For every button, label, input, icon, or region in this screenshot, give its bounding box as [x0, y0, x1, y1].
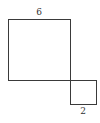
squares-diagram: 6 2 — [0, 0, 100, 123]
small-square-side-label: 2 — [76, 107, 90, 116]
large-square — [8, 19, 71, 81]
large-square-side-label: 6 — [32, 8, 46, 17]
small-square — [70, 80, 97, 105]
